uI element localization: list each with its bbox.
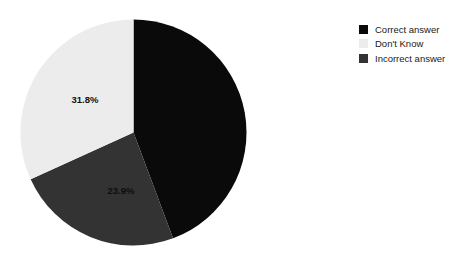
legend-swatch-icon-dont-know: [359, 39, 368, 48]
legend-item-incorrect-answer[interactable]: Incorrect answer: [359, 51, 471, 66]
pie-svg: 31.8% 23.9%: [20, 19, 247, 246]
legend-swatch-icon-incorrect-answer: [359, 54, 368, 63]
legend-item-correct-answer[interactable]: Correct answer: [359, 22, 471, 37]
legend-label-correct-answer: Correct answer: [375, 24, 439, 35]
legend-label-dont-know: Don't Know: [375, 38, 423, 49]
chart-legend: Correct answer Don't Know Incorrect answ…: [359, 22, 471, 66]
pie-label-dont-know: 31.8%: [72, 94, 99, 105]
pie-label-incorrect-answer: 23.9%: [108, 185, 135, 196]
legend-item-dont-know[interactable]: Don't Know: [359, 37, 471, 52]
legend-label-incorrect-answer: Incorrect answer: [375, 53, 445, 64]
legend-swatch-icon-correct-answer: [359, 25, 368, 34]
pie-plot-area: 31.8% 23.9%: [20, 19, 247, 246]
pie-chart-figure: 31.8% 23.9% Correct answer Don't Know In…: [0, 0, 476, 259]
